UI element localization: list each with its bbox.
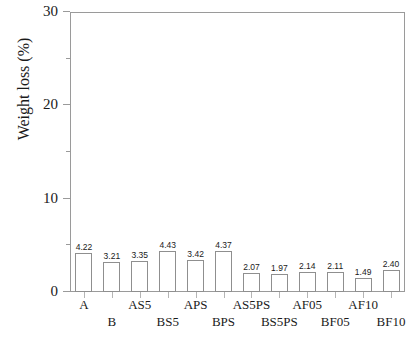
bar-BS5PS: [271, 274, 288, 292]
x-label-BS5PS: BS5PS: [249, 314, 309, 330]
x-label-AF10: AF10: [333, 297, 393, 313]
y-tick-minor-25: [66, 58, 70, 59]
x-label-BF05: BF05: [305, 314, 365, 330]
y-tick-label-10: 10: [28, 190, 58, 207]
bar-APS: [187, 260, 204, 292]
bar-value-APS: 3.42: [180, 249, 212, 259]
bar-value-BPS: 4.37: [208, 240, 240, 250]
x-label-AS5PS: AS5PS: [221, 297, 281, 313]
bar-value-AS5: 3.35: [124, 250, 156, 260]
y-tick-20: [63, 104, 70, 105]
x-label-BS5: BS5: [138, 314, 198, 330]
bar-AS5PS: [243, 273, 260, 292]
bar-BS5: [159, 251, 176, 292]
y-tick-10: [63, 198, 70, 199]
x-label-BF10: BF10: [361, 314, 418, 330]
y-tick-0: [63, 291, 70, 292]
y-tick-30: [63, 11, 70, 12]
bar-A: [75, 253, 92, 292]
y-tick-minor-15: [66, 151, 70, 152]
bar-AF10: [355, 278, 372, 292]
x-label-B: B: [82, 314, 142, 330]
bar-AS5: [131, 261, 148, 292]
bar-BF05: [327, 272, 344, 292]
bar-B: [103, 262, 120, 292]
bar-BPS: [215, 251, 232, 292]
x-label-AS5: AS5: [110, 297, 170, 313]
bar-BF10: [383, 270, 400, 292]
y-tick-label-30: 30: [28, 3, 58, 20]
x-label-AF05: AF05: [277, 297, 337, 313]
y-axis-title: Weight loss (%): [15, 9, 33, 169]
bar-chart: Weight loss (%) 0102030 4.223.213.354.43…: [0, 0, 418, 340]
x-label-A: A: [54, 297, 114, 313]
bar-value-BF10: 2.40: [375, 259, 407, 269]
x-label-APS: APS: [166, 297, 226, 313]
y-tick-label-20: 20: [28, 96, 58, 113]
x-label-BPS: BPS: [194, 314, 254, 330]
bar-AF05: [299, 272, 316, 292]
